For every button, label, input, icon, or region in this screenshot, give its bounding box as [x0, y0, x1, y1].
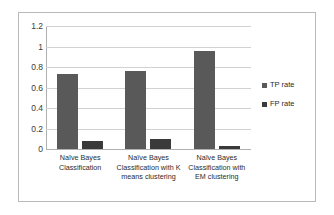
category-label-line: EM clustering	[184, 172, 250, 182]
y-axis-tick-label: 0.6	[21, 84, 43, 93]
bar-fp-rate	[82, 141, 103, 149]
chart-legend: TP rateFP rate	[262, 81, 314, 119]
bar-group	[183, 26, 251, 149]
legend-label: FP rate	[270, 100, 294, 108]
category-label-line: Classification with	[184, 163, 250, 173]
gridline	[46, 149, 251, 150]
category-label-line: means clustering	[115, 172, 181, 182]
category-label-line: Naïve Bayes	[184, 153, 250, 163]
legend-item[interactable]: FP rate	[262, 100, 314, 108]
x-axis-category-label: Naïve BayesClassification with Kmeans cl…	[114, 153, 182, 199]
bar-fp-rate	[150, 139, 171, 149]
y-axis-tick-label: 1.2	[21, 22, 43, 31]
legend-swatch-icon	[262, 83, 267, 88]
bar-tp-rate	[57, 74, 78, 149]
x-axis-category-label: Naïve BayesClassification	[46, 153, 114, 199]
plot-area	[46, 26, 251, 149]
legend-item[interactable]: TP rate	[262, 81, 314, 89]
y-axis-tick-label: 0	[21, 145, 43, 154]
y-axis-tick-label: 1	[21, 43, 43, 52]
bar-tp-rate	[125, 71, 146, 149]
legend-swatch-icon	[262, 102, 267, 107]
y-axis-tick-label: 0.8	[21, 63, 43, 72]
y-axis-tick-labels: 1.210.80.60.40.20	[19, 26, 43, 149]
x-axis-category-label: Naïve BayesClassification withEM cluster…	[183, 153, 251, 199]
category-label-line: Naïve Bayes	[47, 153, 113, 163]
bar-fp-rate	[219, 146, 240, 149]
y-axis-tick-label: 0.2	[21, 125, 43, 134]
y-axis-tick-label: 0.4	[21, 104, 43, 113]
legend-label: TP rate	[270, 81, 294, 89]
bar-tp-rate	[194, 51, 215, 149]
category-label-line: Classification with K	[115, 163, 181, 173]
category-label-line: Naïve Bayes	[115, 153, 181, 163]
chart-frame: 1.210.80.60.40.20 Naïve BayesClassificat…	[18, 12, 316, 202]
bar-group	[46, 26, 114, 149]
x-axis-category-labels: Naïve BayesClassificationNaïve BayesClas…	[46, 153, 251, 199]
bar-group	[114, 26, 182, 149]
category-label-line: Classification	[47, 163, 113, 173]
